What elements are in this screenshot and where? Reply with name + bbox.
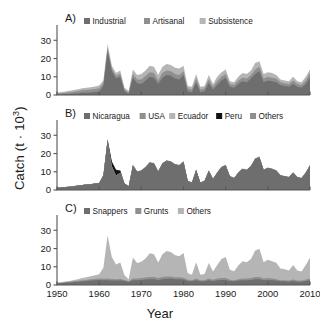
x-axis-title: Year bbox=[0, 306, 320, 321]
stacked-area-chart: 0102030A)IndustrialArtisanalSubsistence0… bbox=[0, 0, 320, 305]
legend-label: Nicaragua bbox=[93, 112, 131, 121]
legend-swatch bbox=[135, 208, 141, 214]
legend-label: Snappers bbox=[93, 207, 128, 216]
y-tick-label: 20 bbox=[40, 53, 51, 64]
legend-swatch bbox=[144, 18, 150, 24]
panel-label: B) bbox=[65, 107, 76, 119]
y-tick-label: 20 bbox=[40, 243, 51, 254]
legend-label: Subsistence bbox=[208, 17, 253, 26]
y-tick-label: 30 bbox=[40, 35, 51, 46]
legend-swatch bbox=[84, 208, 90, 214]
x-tick-label: 1990 bbox=[215, 288, 236, 299]
legend-label: Peru bbox=[225, 112, 243, 121]
y-tick-label: 0 bbox=[46, 184, 51, 195]
area-series-nicaragua bbox=[57, 141, 310, 190]
x-tick-label: 1950 bbox=[46, 288, 67, 299]
legend-label: Others bbox=[259, 112, 284, 121]
legend-label: Others bbox=[186, 207, 211, 216]
panel-label: A) bbox=[65, 12, 76, 24]
legend-swatch bbox=[250, 113, 256, 119]
y-axis-title-paren: ) bbox=[12, 106, 27, 111]
x-tick-label: 2010 bbox=[299, 288, 320, 299]
y-tick-label: 10 bbox=[40, 166, 51, 177]
legend-label: Grunts bbox=[144, 207, 169, 216]
figure-container: Catch (t · 103) 0102030A)IndustrialArtis… bbox=[0, 0, 320, 327]
panel-c: 01020301950196019701980199020002010C)Sna… bbox=[40, 202, 320, 299]
panel-a: 0102030A)IndustrialArtisanalSubsistence bbox=[40, 12, 310, 100]
legend-swatch bbox=[178, 208, 184, 214]
y-tick-label: 0 bbox=[46, 89, 51, 100]
y-tick-label: 30 bbox=[40, 225, 51, 236]
x-tick-label: 2000 bbox=[257, 288, 278, 299]
y-axis-title: Catch (t · 103) bbox=[11, 88, 27, 208]
legend-label: USA bbox=[148, 112, 165, 121]
legend-label: Industrial bbox=[93, 17, 126, 26]
y-axis-title-exponent: 3 bbox=[11, 111, 21, 116]
legend-swatch bbox=[216, 113, 222, 119]
y-tick-label: 10 bbox=[40, 261, 51, 272]
y-tick-label: 20 bbox=[40, 148, 51, 159]
y-tick-label: 30 bbox=[40, 130, 51, 141]
legend-swatch bbox=[200, 18, 206, 24]
legend-swatch bbox=[140, 113, 146, 119]
x-tick-label: 1970 bbox=[131, 288, 152, 299]
y-axis-title-text: Catch (t · 10 bbox=[12, 116, 27, 190]
panel-b: 0102030B)NicaraguaUSAEcuadorPeruOthers bbox=[40, 107, 310, 195]
legend-label: Artisanal bbox=[153, 17, 185, 26]
legend-label: Ecuador bbox=[178, 112, 209, 121]
panel-label: C) bbox=[65, 202, 77, 214]
x-tick-label: 1980 bbox=[173, 288, 194, 299]
legend-swatch bbox=[84, 18, 90, 24]
area-series-others bbox=[57, 236, 310, 285]
y-tick-label: 10 bbox=[40, 71, 51, 82]
legend-swatch bbox=[84, 113, 90, 119]
x-tick-label: 1960 bbox=[89, 288, 110, 299]
legend-swatch bbox=[169, 113, 175, 119]
